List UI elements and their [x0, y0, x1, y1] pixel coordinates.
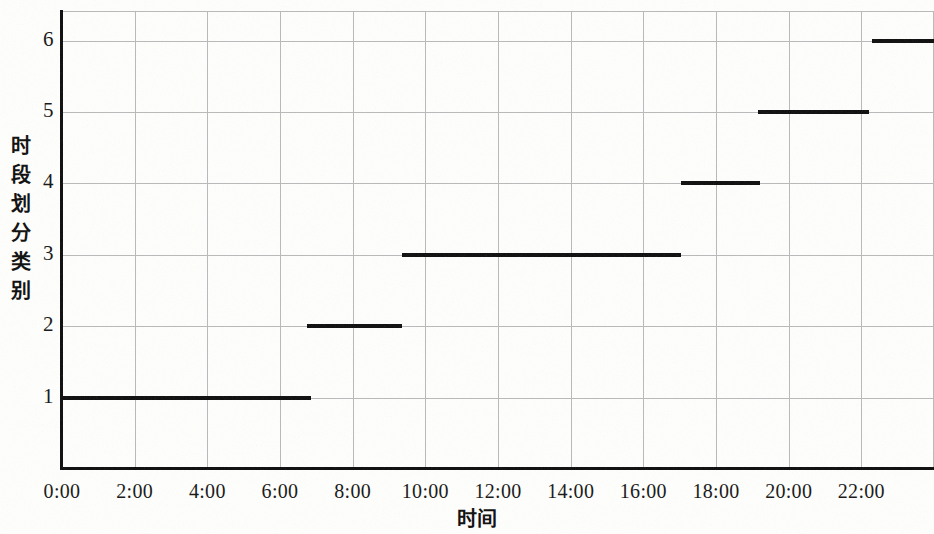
data-segment [307, 324, 401, 328]
data-segment [872, 39, 934, 43]
x-axis-title: 时间 [417, 508, 537, 530]
y-axis-line [60, 10, 63, 470]
gridline-vertical [207, 12, 208, 469]
y-axis-title-char: 别 [6, 277, 36, 306]
x-axis-tick-label: 22:00 [816, 480, 906, 502]
y-axis-tick-label: 1 [24, 386, 54, 407]
chart-figure: 123456 0:002:004:006:008:0010:0012:0014:… [0, 0, 934, 534]
y-axis-title-char: 时 [6, 132, 36, 161]
y-axis-title-char: 类 [6, 248, 36, 277]
gridline-vertical [353, 12, 354, 469]
x-axis-line [60, 467, 934, 470]
data-segment [681, 181, 759, 185]
data-segment [758, 110, 869, 114]
gridline-vertical [571, 12, 572, 469]
gridline-vertical [861, 12, 862, 469]
y-axis-tick-label: 6 [24, 29, 54, 50]
y-axis-tick-label: 2 [24, 314, 54, 335]
y-axis-tick-label: 5 [24, 100, 54, 121]
gridline-vertical [643, 12, 644, 469]
gridline-vertical [498, 12, 499, 469]
y-axis-title-char: 段 [6, 161, 36, 190]
gridline-vertical [280, 12, 281, 469]
gridline-vertical [789, 12, 790, 469]
y-axis-title-char: 划 [6, 190, 36, 219]
gridline-vertical [716, 12, 717, 469]
data-segment [62, 396, 311, 400]
gridline-vertical [135, 12, 136, 469]
y-axis-title-char: 分 [6, 219, 36, 248]
data-segment [402, 253, 682, 257]
y-axis-title: 时段划分类别 [6, 132, 36, 306]
plot-area [62, 11, 934, 468]
gridline-vertical [425, 12, 426, 469]
